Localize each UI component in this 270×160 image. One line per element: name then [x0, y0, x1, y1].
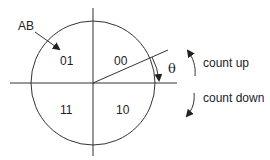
ab-label: AB — [18, 20, 34, 32]
count-down-arrow — [187, 93, 194, 116]
quadrature-diagram — [0, 0, 270, 160]
angle-line — [93, 50, 168, 83]
quadrant-01-label: 01 — [60, 55, 73, 67]
theta-label: θ — [168, 62, 176, 75]
count-up-arrow — [188, 51, 195, 76]
quadrant-11-label: 11 — [60, 104, 72, 116]
ab-pointer-arrow — [35, 32, 59, 49]
count-down-label: count down — [203, 92, 264, 104]
quadrant-10-label: 10 — [116, 104, 129, 116]
quadrant-00-label: 00 — [114, 55, 127, 67]
count-up-label: count up — [203, 57, 249, 69]
